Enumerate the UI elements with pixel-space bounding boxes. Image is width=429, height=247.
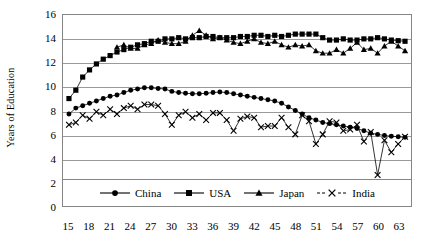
triangle-marker-icon — [243, 187, 275, 199]
x-marker-icon — [316, 187, 348, 199]
y-tick-label: 6 — [51, 129, 57, 141]
legend-item-japan[interactable]: Japan — [243, 187, 304, 199]
x-tick-label: 42 — [249, 220, 260, 232]
x-tick-label: 18 — [83, 220, 94, 232]
legend-item-india[interactable]: India — [316, 187, 375, 199]
series-china — [66, 85, 407, 139]
x-tick-label: 54 — [332, 220, 343, 232]
circle-marker-icon — [99, 187, 131, 199]
legend-label: USA — [209, 187, 231, 199]
x-tick-label: 27 — [145, 220, 156, 232]
legend-item-usa[interactable]: USA — [173, 187, 231, 199]
x-tick-label: 45 — [269, 220, 280, 232]
y-tick-label: 16 — [45, 8, 56, 20]
y-axis-title-container: Years of Education — [0, 0, 22, 215]
plot-area: ChinaUSAJapanIndia — [62, 14, 412, 207]
series-india — [66, 102, 408, 178]
legend-label: Japan — [279, 187, 304, 199]
x-tick-label: 51 — [311, 220, 322, 232]
x-tick-label: 21 — [104, 220, 115, 232]
y-tick-label: 2 — [51, 177, 57, 189]
x-tick-label: 33 — [187, 220, 198, 232]
series-japan — [114, 27, 408, 55]
x-tick-label: 30 — [166, 220, 177, 232]
education-years-line-chart: Years of Education 0246810121416 ChinaUS… — [0, 0, 429, 247]
x-tick-label: 39 — [228, 220, 239, 232]
x-tick-label: 57 — [352, 220, 363, 232]
x-tick-label: 63 — [394, 220, 405, 232]
y-tick-label: 10 — [45, 80, 56, 92]
x-tick-label: 36 — [207, 220, 218, 232]
y-tick-label: 12 — [45, 56, 56, 68]
chart-legend: ChinaUSAJapanIndia — [63, 179, 411, 206]
x-tick-label: 24 — [125, 220, 136, 232]
y-axis-title: Years of Education — [6, 68, 17, 148]
y-tick-label: 14 — [45, 32, 56, 44]
x-tick-label: 15 — [63, 220, 74, 232]
y-tick-label: 4 — [51, 153, 57, 165]
y-tick-label: 0 — [51, 201, 57, 213]
x-tick-label: 48 — [290, 220, 301, 232]
legend-item-china[interactable]: China — [99, 187, 161, 199]
square-marker-icon — [173, 187, 205, 199]
legend-label: China — [135, 187, 161, 199]
y-axis-tick-labels: 0246810121416 — [22, 0, 60, 215]
x-axis-tick-labels: 1518212427303336394245485154576063 — [62, 214, 412, 238]
x-tick-label: 60 — [373, 220, 384, 232]
series-canvas — [63, 15, 411, 206]
legend-label: India — [352, 187, 375, 199]
y-tick-label: 8 — [51, 105, 57, 117]
